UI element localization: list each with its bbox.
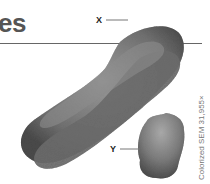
x-chromosome-label: X	[96, 16, 102, 25]
chromosome-micrograph	[0, 0, 210, 184]
micrograph-caption: Colorized SEM 31,955×	[197, 95, 206, 180]
y-chromosome-label: Y	[110, 145, 116, 154]
y-chromosome	[138, 113, 184, 179]
